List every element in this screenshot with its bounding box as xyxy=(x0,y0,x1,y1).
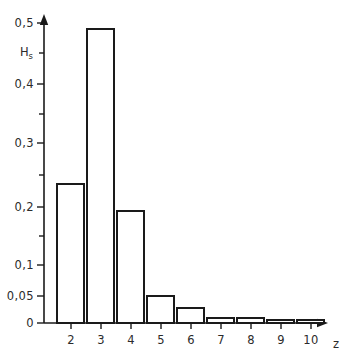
bar xyxy=(297,320,324,323)
x-axis-tick-label: 8 xyxy=(247,333,255,347)
x-axis-tick-label: 9 xyxy=(277,333,285,347)
bar xyxy=(57,184,84,323)
x-axis-tick-label: 6 xyxy=(187,333,195,347)
y-axis-tick-label: 0,2 xyxy=(15,200,35,214)
x-axis-tick-label: 5 xyxy=(157,333,165,347)
chart-canvas xyxy=(0,0,348,354)
bar xyxy=(207,318,234,323)
bar xyxy=(177,308,204,323)
y-axis-tick-label: 0,4 xyxy=(15,77,35,91)
y-axis-tick-label: 0,1 xyxy=(15,258,35,272)
x-axis-tick-label: 10 xyxy=(303,333,318,347)
x-axis-tick-label: 7 xyxy=(217,333,225,347)
bars-layer xyxy=(57,29,324,323)
y-axis-tick-label: 0 xyxy=(26,316,34,330)
x-axis-label: z xyxy=(333,337,339,351)
y-axis-tick-label: 0,05 xyxy=(7,289,34,303)
y-axis-label: Hs xyxy=(20,45,33,61)
y-axis-tick-label: 0,3 xyxy=(15,136,35,150)
y-axis-tick-label: 0,5 xyxy=(15,16,35,30)
bar xyxy=(117,211,144,323)
histogram-chart: 0,50,40,30,20,10,050 2345678910 Hs z xyxy=(0,0,348,354)
x-axis-tick-label: 4 xyxy=(127,333,135,347)
x-axis-tick-label: 3 xyxy=(97,333,105,347)
bar xyxy=(147,296,174,323)
bar xyxy=(267,320,294,323)
bar xyxy=(87,29,114,323)
y-axis-label-main: H xyxy=(20,45,29,59)
x-axis-tick-label: 2 xyxy=(67,333,75,347)
plot-area: 0,50,40,30,20,10,050 2345678910 Hs z xyxy=(0,0,348,354)
bar xyxy=(237,318,264,323)
y-axis-label-subscript: s xyxy=(29,51,33,61)
